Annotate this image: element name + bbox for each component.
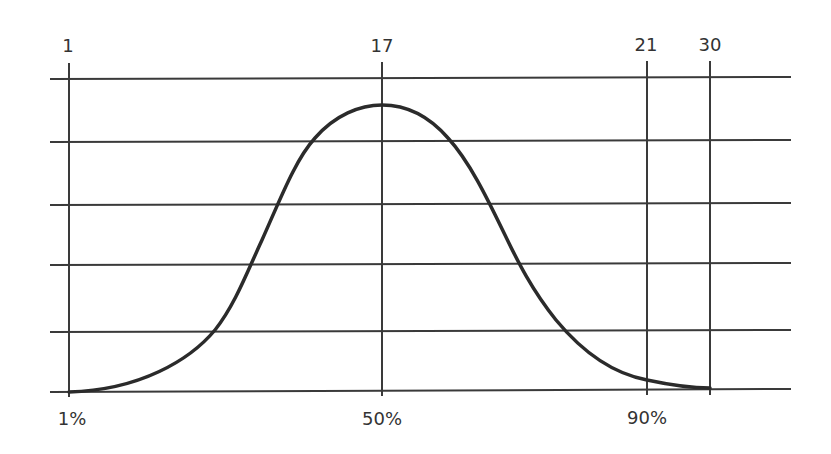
bottom-tick-label: 1% — [58, 408, 87, 429]
bell-curve-chart: 1 17 21 30 1% 50% 90% — [0, 0, 831, 454]
distribution-curve — [69, 105, 710, 392]
top-tick-label: 21 — [635, 34, 658, 55]
top-tick-label: 30 — [699, 34, 722, 55]
gridline-h — [50, 389, 791, 392]
bottom-tick-label: 50% — [362, 408, 402, 429]
gridline-h — [50, 77, 791, 79]
top-tick-label: 1 — [62, 35, 73, 56]
vertical-markers — [69, 61, 710, 397]
gridline-h — [50, 263, 791, 265]
gridline-h — [50, 203, 791, 205]
top-tick-label: 17 — [371, 35, 394, 56]
bottom-tick-label: 90% — [627, 407, 667, 428]
horizontal-gridlines — [50, 77, 791, 392]
gridline-h — [50, 140, 791, 142]
gridline-h — [50, 330, 791, 332]
